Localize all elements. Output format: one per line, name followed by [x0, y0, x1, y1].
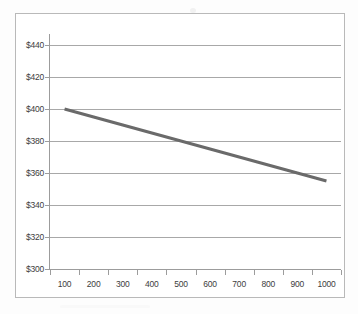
category-axis-tick-label: 900 — [283, 280, 312, 289]
category-axis-tick — [225, 270, 226, 275]
category-axis-tick-label: 700 — [225, 280, 254, 289]
category-axis-labels: 1002003004005006007008009001000 — [50, 280, 341, 294]
category-axis-tick-label: 600 — [196, 280, 225, 289]
category-axis-ticks — [50, 270, 341, 276]
category-axis-tick-label: 100 — [50, 280, 79, 289]
category-axis-tick-label: 800 — [254, 280, 283, 289]
category-axis-tick-label: 500 — [166, 280, 195, 289]
category-axis-tick — [108, 270, 109, 275]
category-axis-tick-label: 200 — [79, 280, 108, 289]
chart-container: $300$320$340$360$380$400$420$440 1002003… — [15, 13, 345, 298]
scan-artifact — [60, 305, 150, 308]
category-axis-tick — [50, 270, 51, 275]
category-axis-tick — [166, 270, 167, 275]
category-axis-tick — [196, 270, 197, 275]
category-axis-tick — [341, 270, 342, 275]
demand-curve-line — [65, 109, 327, 181]
category-axis-tick-label: 1000 — [312, 280, 341, 289]
category-axis-tick — [137, 270, 138, 275]
plot-area — [50, 45, 341, 269]
category-axis-tick — [283, 270, 284, 275]
category-axis-tick — [79, 270, 80, 275]
category-axis-tick-label: 400 — [137, 280, 166, 289]
series-layer — [50, 45, 341, 269]
category-axis-tick — [312, 270, 313, 275]
category-axis-tick — [254, 270, 255, 275]
scanned-page-background: $300$320$340$360$380$400$420$440 1002003… — [0, 0, 358, 314]
category-axis-tick-label: 300 — [108, 280, 137, 289]
